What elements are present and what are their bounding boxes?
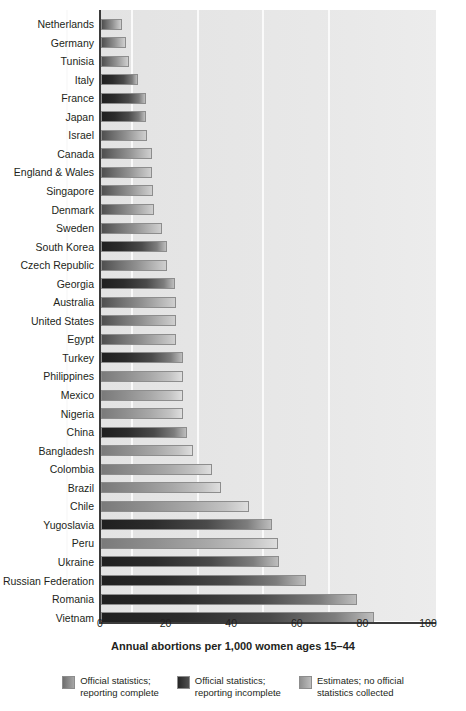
bar-row: France [0, 88, 466, 108]
bar-row: Brazil [0, 478, 466, 498]
category-label-japan: Japan [0, 111, 94, 123]
bar-egypt [101, 334, 176, 345]
category-label-russian-federation: Russian Federation [0, 575, 94, 587]
bar-germany [101, 37, 126, 48]
bar-row: Egypt [0, 329, 466, 349]
category-label-england-wales: England & Wales [0, 166, 94, 178]
bar-colombia [101, 464, 212, 475]
bar-yugoslavia [101, 519, 272, 530]
category-label-ukraine: Ukraine [0, 556, 94, 568]
bar-italy [101, 74, 138, 85]
category-label-netherlands: Netherlands [0, 18, 94, 30]
category-label-south-korea: South Korea [0, 241, 94, 253]
bar-row: Yugoslavia [0, 515, 466, 535]
bar-row: Sweden [0, 218, 466, 238]
bar-row: Tunisia [0, 51, 466, 71]
bar-row: Netherlands [0, 14, 466, 34]
category-label-israel: Israel [0, 129, 94, 141]
bar-chile [101, 501, 249, 512]
category-label-czech-republic: Czech Republic [0, 259, 94, 271]
bar-japan [101, 111, 146, 122]
legend-label-incomplete: Official statistics; reporting incomplet… [195, 675, 281, 698]
bar-philippines [101, 371, 183, 382]
x-tick-label-80: 80 [357, 617, 369, 629]
bar-china [101, 427, 187, 438]
bar-row: Czech Republic [0, 255, 466, 275]
bar-row: Romania [0, 589, 466, 609]
bar-row: Japan [0, 107, 466, 127]
bar-row: Germany [0, 33, 466, 53]
y-axis-line [99, 10, 101, 623]
bar-row: China [0, 422, 466, 442]
bar-row: Mexico [0, 385, 466, 405]
bar-row: Nigeria [0, 404, 466, 424]
bar-france [101, 93, 146, 104]
bar-row: Turkey [0, 348, 466, 368]
bar-georgia [101, 278, 175, 289]
x-axis-title: Annual abortions per 1,000 women ages 15… [0, 640, 466, 652]
category-label-united-states: United States [0, 315, 94, 327]
x-axis-line [99, 622, 436, 624]
bar-peru [101, 538, 278, 549]
bar-row: Israel [0, 125, 466, 145]
bar-united-states [101, 315, 176, 326]
x-tick-label-40: 40 [225, 617, 237, 629]
category-label-germany: Germany [0, 37, 94, 49]
bar-canada [101, 148, 152, 159]
legend-item-complete: Official statistics; reporting complete [62, 675, 159, 698]
x-tick-label-60: 60 [291, 617, 303, 629]
category-label-brazil: Brazil [0, 482, 94, 494]
bar-bangladesh [101, 445, 193, 456]
bar-sweden [101, 223, 162, 234]
legend-label-estimate: Estimates; no official statistics collec… [317, 675, 404, 698]
category-label-egypt: Egypt [0, 333, 94, 345]
bar-row: Philippines [0, 366, 466, 386]
bar-row: England & Wales [0, 162, 466, 182]
bar-england-wales [101, 167, 152, 178]
x-tick-label-0: 0 [97, 617, 103, 629]
x-tick-label-20: 20 [160, 617, 172, 629]
bar-nigeria [101, 408, 183, 419]
bar-brazil [101, 482, 221, 493]
plot-area: NetherlandsGermanyTunisiaItalyFranceJapa… [0, 10, 466, 622]
category-label-italy: Italy [0, 74, 94, 86]
bar-singapore [101, 185, 153, 196]
bar-tunisia [101, 56, 129, 67]
legend-swatch-estimate [299, 676, 312, 689]
category-label-philippines: Philippines [0, 370, 94, 382]
bar-row: Russian Federation [0, 571, 466, 591]
category-label-canada: Canada [0, 148, 94, 160]
bar-row: Canada [0, 144, 466, 164]
category-label-romania: Romania [0, 593, 94, 605]
bar-row: United States [0, 311, 466, 331]
bar-row: Australia [0, 292, 466, 312]
category-label-bangladesh: Bangladesh [0, 445, 94, 457]
bar-row: Ukraine [0, 552, 466, 572]
category-label-vietnam: Vietnam [0, 612, 94, 624]
x-tick-label-100: 100 [419, 617, 437, 629]
category-label-turkey: Turkey [0, 352, 94, 364]
category-label-tunisia: Tunisia [0, 55, 94, 67]
bar-czech-republic [101, 260, 167, 271]
bar-row: Singapore [0, 181, 466, 201]
bar-russian-federation [101, 575, 306, 586]
bar-row: Denmark [0, 200, 466, 220]
category-label-denmark: Denmark [0, 204, 94, 216]
category-label-peru: Peru [0, 537, 94, 549]
bar-row: South Korea [0, 237, 466, 257]
bar-row: Bangladesh [0, 441, 466, 461]
bar-south-korea [101, 241, 167, 252]
bar-row: Chile [0, 496, 466, 516]
bar-israel [101, 130, 147, 141]
category-label-sweden: Sweden [0, 222, 94, 234]
category-label-china: China [0, 426, 94, 438]
chart-legend: Official statistics; reporting completeO… [0, 675, 466, 698]
legend-swatch-complete [62, 676, 75, 689]
abortion-rate-bar-chart: NetherlandsGermanyTunisiaItalyFranceJapa… [0, 0, 466, 711]
bar-ukraine [101, 556, 279, 567]
bar-romania [101, 594, 357, 605]
category-label-chile: Chile [0, 500, 94, 512]
legend-item-incomplete: Official statistics; reporting incomplet… [177, 675, 281, 698]
bar-row: Peru [0, 533, 466, 553]
legend-item-estimate: Estimates; no official statistics collec… [299, 675, 404, 698]
